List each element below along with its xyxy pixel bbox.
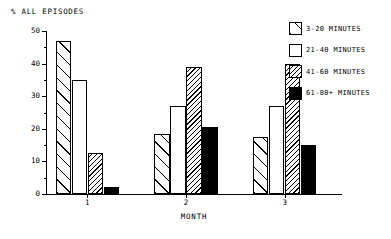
legend-label: 41-60 MINUTES	[306, 68, 365, 76]
x-tick-label: 2	[184, 199, 189, 207]
y-tick-minor	[44, 47, 47, 48]
y-tick-label: 40	[31, 60, 40, 68]
y-tick-minor	[44, 113, 47, 114]
legend-swatch-icon	[289, 87, 302, 100]
y-tick-minor	[44, 145, 47, 146]
legend-label: 61-80+ MINUTES	[306, 89, 370, 97]
bar	[186, 67, 202, 194]
bar	[301, 145, 317, 194]
bar-chart: % ALL EPISODES 01020304050 123 MONTH 3-2…	[0, 0, 391, 239]
y-tick-major	[42, 64, 46, 65]
legend-item: 3-20 MINUTES	[289, 18, 370, 40]
legend: 3-20 MINUTES21-40 MINUTES41-60 MINUTES61…	[289, 18, 370, 104]
bar	[88, 153, 104, 194]
x-tick-label: 3	[282, 199, 287, 207]
y-tick-major	[42, 96, 46, 97]
legend-label: 3-20 MINUTES	[306, 25, 361, 33]
legend-swatch-icon	[289, 65, 302, 78]
x-axis-title: MONTH	[46, 212, 342, 221]
legend-label: 21-40 MINUTES	[306, 46, 365, 54]
y-tick-label: 50	[31, 27, 40, 35]
legend-item: 61-80+ MINUTES	[289, 83, 370, 105]
bar	[104, 187, 120, 194]
y-tick-minor	[44, 80, 47, 81]
bar	[154, 134, 170, 194]
x-tick-label: 1	[85, 199, 90, 207]
y-tick-major	[42, 129, 46, 130]
bar	[202, 127, 218, 194]
bar	[56, 41, 72, 194]
x-axis-line	[46, 194, 342, 195]
y-tick-major	[42, 161, 46, 162]
y-tick-label: 30	[31, 92, 40, 100]
y-tick-major	[42, 31, 46, 32]
legend-swatch-icon	[289, 44, 302, 57]
legend-item: 21-40 MINUTES	[289, 40, 370, 62]
bar	[253, 137, 269, 194]
bar	[72, 80, 88, 194]
y-axis-line	[46, 31, 47, 194]
y-tick-major	[42, 194, 46, 195]
y-tick-label: 10	[31, 158, 40, 166]
y-tick-label: 0	[35, 190, 40, 198]
bar	[170, 106, 186, 194]
legend-swatch-icon	[289, 22, 302, 35]
legend-item: 41-60 MINUTES	[289, 61, 370, 83]
y-tick-minor	[44, 178, 47, 179]
bar	[269, 106, 285, 194]
y-tick-label: 20	[31, 125, 40, 133]
y-axis-title: % ALL EPISODES	[11, 7, 84, 16]
